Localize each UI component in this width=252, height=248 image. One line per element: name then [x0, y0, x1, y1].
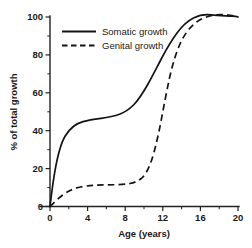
y-tick-label: 40: [32, 125, 43, 136]
x-tick-label: 0: [47, 212, 52, 223]
y-axis-title: % of total growth: [8, 73, 19, 150]
legend-label-somatic-growth: Somatic growth: [102, 26, 167, 37]
y-tick-label: 80: [32, 49, 43, 60]
y-tick-label: 100: [27, 11, 43, 22]
y-tick-label: 0: [38, 201, 43, 212]
legend-label-genital-growth: Genital growth: [102, 40, 163, 51]
x-tick-label: 12: [158, 212, 169, 223]
x-axis-title: Age (years): [118, 228, 170, 239]
x-tick-label: 8: [123, 212, 128, 223]
x-tick-label: 20: [233, 212, 244, 223]
growth-chart: 0 20 40 60 80 100 0 4 8 12 16 20 Age (ye…: [0, 0, 252, 248]
x-tick-label: 4: [85, 212, 91, 223]
y-tick-label: 60: [32, 87, 43, 98]
y-tick-label: 20: [32, 163, 43, 174]
x-tick-label: 16: [195, 212, 206, 223]
